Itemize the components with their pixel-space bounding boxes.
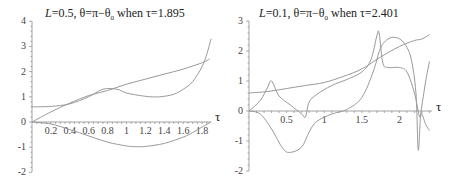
y-tick-label: 0 — [238, 105, 243, 116]
chart-left-xlabel: τ — [215, 109, 220, 124]
series-deep-dip — [249, 37, 429, 152]
y-tick-label: -2 — [235, 165, 243, 176]
x-tick-label: 1.6 — [177, 125, 190, 136]
chart-right-title: L=0.1, θ=π−θ0 when τ=2.401 — [258, 6, 399, 22]
y-tick-label: 3 — [238, 15, 243, 26]
x-tick-label: 1 — [322, 114, 327, 125]
y-tick-label: 2 — [238, 45, 243, 56]
x-tick-label: 2 — [397, 114, 402, 125]
x-tick-label: 1.2 — [139, 125, 152, 136]
x-tick-label: 0.5 — [280, 114, 293, 125]
x-tick-label: 1 — [124, 125, 129, 136]
y-tick-label: -1 — [18, 141, 26, 152]
x-tick-label: 1.5 — [356, 114, 369, 125]
series-smooth-increasing — [249, 35, 429, 94]
y-tick-label: 1 — [238, 75, 243, 86]
chart-right: L=0.1, θ=π−θ0 when τ=2.401 τ -2-101230.5… — [235, 6, 442, 176]
y-tick-label: -2 — [18, 166, 26, 177]
y-tick-label: 4 — [21, 15, 26, 26]
y-tick-label: 0 — [21, 116, 26, 127]
x-tick-label: 0.8 — [101, 125, 114, 136]
y-tick-label: 1 — [21, 91, 26, 102]
chart-left: L=0.5, θ=π−θ0 when τ=1.895 τ -2-1012340.… — [18, 6, 221, 177]
x-tick-label: 1.4 — [158, 125, 171, 136]
y-tick-label: 3 — [21, 40, 26, 51]
x-tick-label: 0.2 — [45, 125, 58, 136]
chart-left-title: L=0.5, θ=π−θ0 when τ=1.895 — [44, 6, 185, 22]
chart-right-xlabel: τ — [436, 99, 441, 114]
y-tick-label: 2 — [21, 66, 26, 77]
series-upper — [32, 39, 211, 107]
figure: L=0.5, θ=π−θ0 when τ=1.895 τ -2-1012340.… — [0, 0, 454, 184]
y-tick-label: -1 — [235, 135, 243, 146]
series-spiky — [249, 31, 429, 118]
